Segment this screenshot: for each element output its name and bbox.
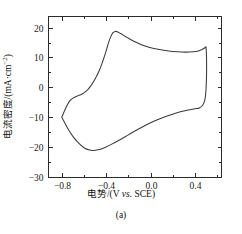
figure-caption: (a) <box>0 210 242 220</box>
x-axis-title-post: SCE) <box>132 189 155 199</box>
y-axis-title-exponent: −2 <box>1 57 8 64</box>
y-tick-label: 0 <box>39 83 44 93</box>
figure-container: −0.8−0.40.00.4 20100−10−20−30 电流密度/(mA·c… <box>0 0 242 234</box>
x-axis-title-pre: 电势/(V <box>87 189 122 199</box>
y-axis-tick-labels: 20100−10−20−30 <box>29 24 44 183</box>
x-axis-major-ticks <box>63 17 196 178</box>
y-tick-label: −30 <box>29 173 44 183</box>
y-axis-major-ticks <box>49 29 222 178</box>
y-tick-label: −10 <box>29 113 44 123</box>
x-axis-title: 电势/(V vs. SCE) <box>0 190 242 200</box>
x-axis-title-vs: vs. <box>122 189 132 199</box>
y-axis-title: 电流密度/(mA·cm−2) <box>4 54 14 139</box>
x-axis-minor-ticks <box>85 17 218 178</box>
y-axis-title-pre: 电流密度/(mA·cm <box>3 64 13 139</box>
y-axis-minor-ticks <box>49 44 222 163</box>
y-axis-title-post: ) <box>3 54 13 57</box>
y-axis-title-wrap: 电流密度/(mA·cm−2) <box>0 0 18 193</box>
y-tick-label: −20 <box>29 143 44 153</box>
y-tick-label: 20 <box>34 24 44 34</box>
y-tick-label: 10 <box>34 53 44 63</box>
cv-curve-line <box>62 31 207 150</box>
